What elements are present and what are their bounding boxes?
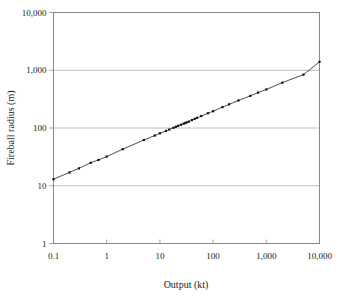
data-point-marker xyxy=(302,74,304,76)
y-tick-label: 1,000 xyxy=(26,65,47,75)
data-point-marker xyxy=(221,106,223,108)
data-point-marker xyxy=(154,134,156,136)
chart-figure: 1101001,00010,000 0.11101001,00010,000 O… xyxy=(0,0,338,296)
data-point-marker xyxy=(143,139,145,141)
data-point-marker xyxy=(68,171,70,173)
data-point-marker xyxy=(97,159,99,161)
data-point-marker xyxy=(228,103,230,105)
data-point-marker xyxy=(318,61,320,63)
data-point-marker xyxy=(180,124,182,126)
data-point-marker xyxy=(188,121,190,123)
x-tick-label: 10 xyxy=(155,251,165,261)
data-point-marker xyxy=(177,125,179,127)
data-point-marker xyxy=(90,162,92,164)
data-point-marker xyxy=(175,126,177,128)
data-point-marker xyxy=(106,155,108,157)
x-tick-label: 1,000 xyxy=(256,251,277,261)
data-point-marker xyxy=(212,110,214,112)
x-tick-label: 100 xyxy=(206,251,220,261)
y-tick-label: 100 xyxy=(33,123,47,133)
y-tick-label: 10,000 xyxy=(22,8,47,18)
data-point-marker xyxy=(172,127,174,129)
data-point-marker xyxy=(52,178,54,180)
data-point-marker xyxy=(200,115,202,117)
fireball-radius-log-log-chart: 1101001,00010,000 0.11101001,00010,000 O… xyxy=(0,0,338,296)
y-tick-label: 10 xyxy=(38,181,48,191)
y-axis-title: Fireball radius (m) xyxy=(5,91,17,166)
data-point-marker xyxy=(237,99,239,101)
data-point-marker xyxy=(168,128,170,130)
y-tick-label: 1 xyxy=(42,239,47,249)
data-point-marker xyxy=(78,167,80,169)
x-tick-label: 1 xyxy=(104,251,109,261)
x-tick-label: 10,000 xyxy=(307,251,332,261)
data-point-marker xyxy=(257,92,259,94)
data-point-marker xyxy=(265,88,267,90)
data-point-marker xyxy=(207,112,209,114)
data-point-marker xyxy=(186,121,188,123)
x-tick-label: 0.1 xyxy=(48,251,59,261)
data-point-marker xyxy=(196,117,198,119)
x-axis-title: Output (kt) xyxy=(164,279,209,291)
data-point-marker xyxy=(159,132,161,134)
data-point-marker xyxy=(281,82,283,84)
data-point-marker xyxy=(249,95,251,97)
data-point-marker xyxy=(122,148,124,150)
data-point-marker xyxy=(165,130,167,132)
data-point-marker xyxy=(194,118,196,120)
data-point-marker xyxy=(191,119,193,121)
